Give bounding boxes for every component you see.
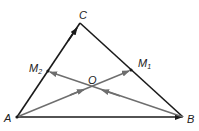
point-m2 <box>46 69 49 72</box>
label-m2: M2 <box>29 62 42 75</box>
point-a <box>15 115 18 118</box>
label-a: A <box>3 112 11 124</box>
label-m1: M1 <box>138 57 151 70</box>
vector-ac-arrow <box>68 28 77 41</box>
label-b: B <box>187 113 194 125</box>
vector-b-o-arrow <box>102 90 120 96</box>
label-o: O <box>88 74 97 86</box>
point-m1 <box>129 68 132 71</box>
triangle-diagram: C A B O M2 M1 <box>0 0 199 131</box>
label-c: C <box>79 9 87 21</box>
vector-a-o-arrow <box>70 90 84 96</box>
